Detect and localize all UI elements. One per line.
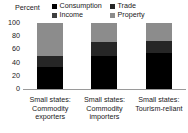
y-tick-label: 100 (0, 19, 20, 27)
legend-swatch-property (110, 13, 115, 18)
legend-item-income[interactable]: Income (52, 11, 83, 19)
bar-segment-consumption[interactable] (91, 56, 117, 89)
stacked-bar[interactable] (91, 23, 117, 89)
x-axis-category-labels: Small states:CommodityexportersSmall sta… (23, 96, 186, 132)
chart-header: Percent Consumption Income Trade Propert… (0, 2, 188, 22)
x-category-label: Small states:Commodityexporters (23, 96, 77, 132)
y-tick-label: 0 (0, 85, 20, 93)
y-tick-label: 40 (0, 59, 20, 67)
plot-canvas (23, 22, 186, 90)
legend-label-consumption: Consumption (60, 2, 102, 10)
legend-label-income: Income (60, 11, 84, 19)
bar-group (23, 23, 186, 89)
legend-item-consumption[interactable]: Consumption (52, 2, 102, 10)
bar-segment-consumption[interactable] (37, 67, 63, 89)
x-category-label-line: exporters (24, 113, 76, 122)
bar-segment-property[interactable] (146, 23, 172, 41)
legend-swatch-income (52, 13, 57, 18)
y-tick-label: 60 (0, 45, 20, 53)
bar-segment-trade[interactable] (37, 56, 63, 67)
bar-segment-consumption[interactable] (146, 53, 172, 89)
legend-label-property: Property (118, 11, 145, 19)
bar-segment-trade[interactable] (91, 42, 117, 56)
chart-plot-area: 020406080100 (0, 22, 188, 94)
y-tick-label: 80 (0, 32, 20, 40)
y-axis-tick-labels: 020406080100 (0, 22, 20, 90)
x-category-label: Small states:Commodityimporters (77, 96, 131, 132)
bar-slot (132, 23, 186, 89)
bar-slot (77, 23, 131, 89)
legend-item-trade[interactable]: Trade (110, 2, 136, 10)
legend-item-property[interactable]: Property (110, 11, 145, 19)
bar-segment-property[interactable] (91, 23, 117, 42)
stacked-bar[interactable] (37, 23, 63, 89)
y-tick-label: 20 (0, 72, 20, 80)
x-category-label-line: importers (78, 113, 130, 122)
legend-swatch-trade (110, 4, 115, 9)
bar-segment-property[interactable] (37, 23, 63, 56)
x-category-label-line: Tourism-reliant (133, 105, 185, 114)
y-axis-title: Percent (15, 3, 40, 12)
bar-segment-trade[interactable] (146, 41, 172, 54)
x-axis-line (23, 89, 186, 90)
x-category-label: Small states:Tourism-reliant (132, 96, 186, 132)
legend-label-trade: Trade (118, 2, 137, 10)
chart-legend: Consumption Income Trade Property (52, 2, 188, 22)
bar-slot (23, 23, 77, 89)
legend-swatch-consumption (52, 4, 57, 9)
stacked-bar[interactable] (146, 23, 172, 89)
